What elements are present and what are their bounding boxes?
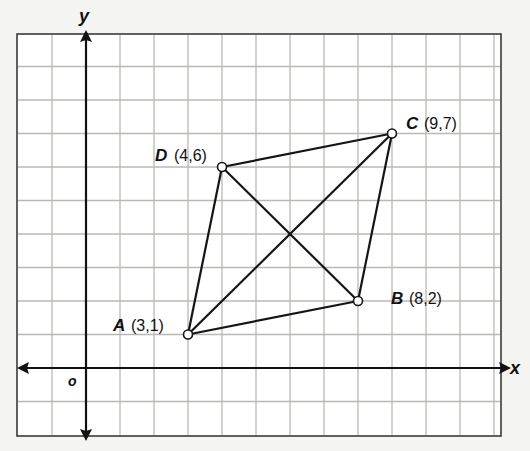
point-label-b: B (8,2) (391, 289, 442, 308)
y-axis-label: y (78, 6, 90, 26)
point-letter: D (155, 146, 167, 165)
point-label-c: C (9,7) (406, 114, 457, 133)
coordinate-plane-figure: x y o A (3,1) B (8,2) C (9,7) D (4,6) (0, 0, 530, 451)
point-coordinates: (3,1) (131, 317, 164, 334)
point-letter: C (406, 114, 419, 133)
vertex-a-marker-icon (184, 330, 193, 339)
vertex-d-marker-icon (218, 163, 227, 172)
grid-border (17, 34, 501, 436)
point-label-a: A (3,1) (112, 316, 164, 335)
x-axis-label: x (509, 358, 521, 378)
point-letter: B (391, 289, 403, 308)
coordinate-plane: x y o A (3,1) B (8,2) C (9,7) D (4,6) (0, 0, 530, 451)
point-label-d: D (4,6) (155, 146, 207, 165)
point-coordinates: (9,7) (424, 115, 457, 132)
origin-label: o (68, 373, 77, 389)
vertex-c-marker-icon (388, 129, 397, 138)
point-coordinates: (4,6) (174, 147, 207, 164)
point-letter: A (112, 316, 125, 335)
vertex-b-marker-icon (354, 297, 363, 306)
point-coordinates: (8,2) (409, 290, 442, 307)
